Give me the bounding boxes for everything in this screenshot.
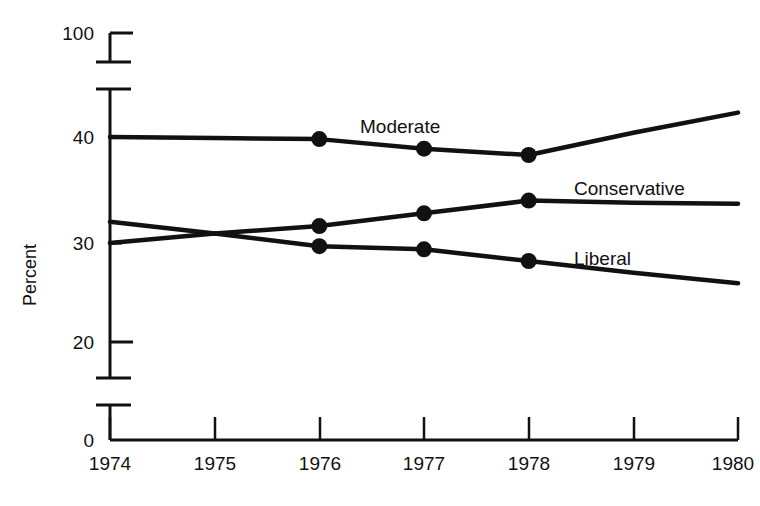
y-axis-title: Percent bbox=[20, 244, 40, 306]
data-point-marker bbox=[521, 253, 537, 269]
y-tick-label-100: 100 bbox=[62, 23, 94, 44]
data-point-marker bbox=[311, 238, 327, 254]
x-tick-label-1977: 1977 bbox=[403, 453, 445, 474]
y-tick-label-20: 20 bbox=[73, 332, 94, 353]
chart-canvas: 100 40 30 20 0 Percent 1974 1975 1976 19… bbox=[0, 0, 760, 506]
data-point-marker bbox=[521, 193, 537, 209]
y-tick-label-40: 40 bbox=[73, 127, 94, 148]
y-tick-label-0: 0 bbox=[83, 430, 94, 451]
series-label-conservative: Conservative bbox=[574, 178, 685, 199]
x-tick-label-1978: 1978 bbox=[508, 453, 550, 474]
data-point-marker bbox=[416, 141, 432, 157]
series-label-liberal: Liberal bbox=[574, 248, 631, 269]
x-tick-label-1976: 1976 bbox=[299, 453, 341, 474]
y-tick-label-30: 30 bbox=[73, 233, 94, 254]
x-tick-label-1975: 1975 bbox=[194, 453, 236, 474]
data-point-marker bbox=[311, 218, 327, 234]
series-label-moderate: Moderate bbox=[360, 116, 440, 137]
x-tick-label-1979: 1979 bbox=[613, 453, 655, 474]
data-point-marker bbox=[521, 147, 537, 163]
x-tick-label-1974: 1974 bbox=[89, 453, 132, 474]
chart-background bbox=[0, 0, 760, 506]
data-point-marker bbox=[416, 241, 432, 257]
line-chart-figure: 100 40 30 20 0 Percent 1974 1975 1976 19… bbox=[0, 0, 760, 506]
data-point-marker bbox=[416, 205, 432, 221]
x-tick-label-1980: 1980 bbox=[712, 453, 754, 474]
data-point-marker bbox=[311, 131, 327, 147]
